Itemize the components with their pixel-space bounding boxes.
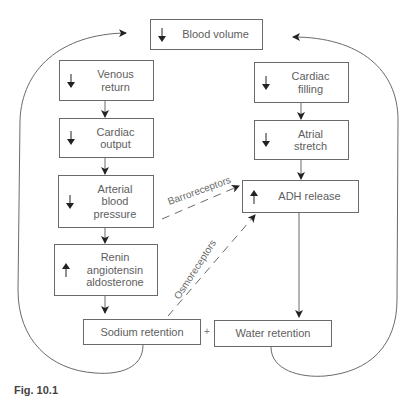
node-label: Atrial stretch	[277, 128, 348, 153]
node-label: ADH release	[265, 190, 358, 203]
node-label: Venous return	[82, 68, 153, 93]
node-label: Blood volume	[173, 28, 262, 41]
plus-sign: +	[204, 326, 210, 337]
node-venous-return: Venous return	[59, 60, 154, 101]
figure-caption: Fig. 10.1	[14, 384, 58, 396]
up-arrow-icon	[243, 190, 265, 204]
node-renin-angiotensin-aldosterone: Renin angiotensin aldosterone	[54, 244, 158, 296]
down-arrow-icon	[255, 133, 277, 147]
node-label: Cardiac filling	[277, 70, 348, 95]
node-sodium-retention: Sodium retention	[83, 319, 201, 345]
node-label: Sodium retention	[84, 326, 200, 339]
node-label: Cardiac output	[82, 126, 153, 151]
node-cardiac-output: Cardiac output	[59, 118, 154, 158]
down-arrow-icon	[60, 74, 82, 88]
down-arrow-icon	[151, 28, 173, 42]
node-label: Water retention	[215, 327, 331, 340]
down-arrow-icon	[60, 131, 82, 145]
node-blood-volume: Blood volume	[150, 19, 263, 50]
node-water-retention: Water retention	[214, 320, 332, 347]
down-arrow-icon	[255, 76, 277, 90]
node-adh-release: ADH release	[242, 180, 359, 213]
node-cardiac-filling: Cardiac filling	[254, 62, 349, 103]
node-label: Arterial blood pressure	[81, 183, 153, 221]
down-arrow-icon	[59, 195, 81, 209]
node-atrial-stretch: Atrial stretch	[254, 120, 349, 160]
node-arterial-blood-pressure: Arterial blood pressure	[58, 175, 154, 228]
node-label: Renin angiotensin aldosterone	[77, 251, 157, 289]
up-arrow-icon	[55, 263, 77, 277]
